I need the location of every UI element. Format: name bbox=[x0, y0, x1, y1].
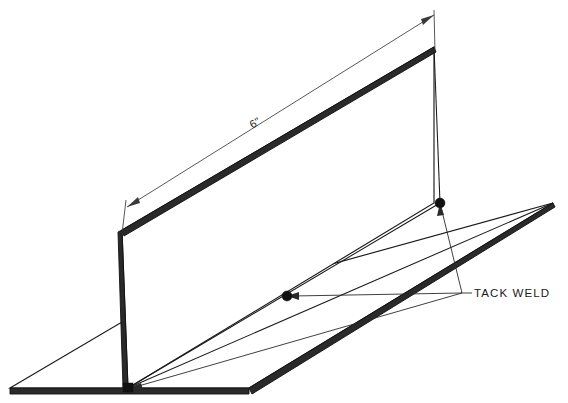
dimension-label-6in: 6" bbox=[247, 115, 262, 131]
tack-weld-label: TACK WELD bbox=[474, 287, 550, 299]
drawing-svg: 6" TACK WELD bbox=[0, 0, 568, 403]
weld-dot-bottom-left bbox=[123, 383, 133, 392]
vertical-plate-right-edge-line bbox=[434, 47, 440, 203]
dimension-arrowhead-right bbox=[421, 15, 434, 25]
weld-dot-top-right bbox=[435, 198, 445, 208]
dimension-extension-line-right bbox=[434, 10, 435, 52]
dimension-arrowhead-left bbox=[127, 197, 140, 207]
technical-drawing-canvas: 6" TACK WELD bbox=[0, 0, 568, 403]
weld-dot-middle bbox=[282, 291, 292, 301]
